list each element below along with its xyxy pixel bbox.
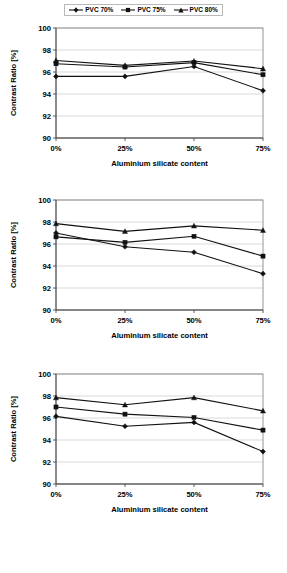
y-tick-label: 98 xyxy=(43,392,51,401)
square-marker-icon xyxy=(54,235,58,239)
legend-item-pvc-75: PVC 75% xyxy=(121,6,165,14)
square-marker-icon xyxy=(261,254,265,258)
figure-page: PVC 70% PVC 75% PVC 80% 10098969492900%2… xyxy=(0,0,287,573)
diamond-marker-icon xyxy=(69,6,83,14)
square-marker-icon xyxy=(192,415,196,419)
y-tick-label: 100 xyxy=(38,370,51,379)
legend-item-pvc-80: PVC 80% xyxy=(174,6,218,14)
y-tick-label: 96 xyxy=(43,414,51,423)
y-axis-title: Contrast Ratio [%] xyxy=(9,395,18,462)
y-tick-label: 94 xyxy=(43,262,52,271)
chart-canvas-1: 10098969492900%25%50%75%Aluminium silica… xyxy=(0,16,287,186)
line-chart-2: 10098969492900%25%50%75%Aluminium silica… xyxy=(0,188,287,358)
y-tick-label: 92 xyxy=(43,458,51,467)
legend-label-pvc-80: PVC 80% xyxy=(190,6,218,14)
chart-canvas-3: 10098969492900%25%50%75%Aluminium silica… xyxy=(0,362,287,532)
y-tick-label: 98 xyxy=(43,46,51,55)
y-axis-title: Contrast Ratio [%] xyxy=(9,221,18,288)
x-tick-label: 75% xyxy=(255,316,270,325)
y-tick-label: 96 xyxy=(43,68,51,77)
x-tick-label: 75% xyxy=(255,144,270,153)
y-tick-label: 90 xyxy=(43,480,51,489)
x-tick-label: 75% xyxy=(255,490,270,499)
square-marker-icon xyxy=(123,240,127,244)
square-marker-icon xyxy=(192,234,196,238)
line-chart-3: 10098969492900%25%50%75%Aluminium silica… xyxy=(0,362,287,532)
x-tick-label: 25% xyxy=(117,316,132,325)
legend-item-pvc-70: PVC 70% xyxy=(69,6,113,14)
x-tick-label: 0% xyxy=(51,316,62,325)
y-tick-label: 96 xyxy=(43,240,51,249)
y-tick-label: 94 xyxy=(43,90,52,99)
square-marker-icon xyxy=(123,412,127,416)
x-tick-label: 25% xyxy=(117,490,132,499)
chart-legend: PVC 70% PVC 75% PVC 80% xyxy=(0,4,287,16)
square-marker-icon xyxy=(261,428,265,432)
x-axis-title: Aluminium silicate content xyxy=(111,159,208,168)
y-tick-label: 92 xyxy=(43,112,51,121)
y-tick-label: 94 xyxy=(43,436,52,445)
y-axis-title: Contrast Ratio [%] xyxy=(9,49,18,116)
y-tick-label: 90 xyxy=(43,134,51,143)
y-tick-label: 100 xyxy=(38,24,51,33)
x-tick-label: 25% xyxy=(117,144,132,153)
x-tick-label: 50% xyxy=(186,490,201,499)
y-tick-label: 98 xyxy=(43,218,51,227)
square-marker-icon xyxy=(121,6,135,14)
y-tick-label: 100 xyxy=(38,196,51,205)
y-tick-label: 92 xyxy=(43,284,51,293)
chart-canvas-2: 10098969492900%25%50%75%Aluminium silica… xyxy=(0,188,287,358)
square-marker-icon xyxy=(261,73,265,77)
triangle-marker-icon xyxy=(174,6,188,14)
y-tick-label: 90 xyxy=(43,306,51,315)
legend-box: PVC 70% PVC 75% PVC 80% xyxy=(64,4,223,16)
x-tick-label: 50% xyxy=(186,144,201,153)
line-chart-1: 10098969492900%25%50%75%Aluminium silica… xyxy=(0,16,287,186)
legend-label-pvc-70: PVC 70% xyxy=(85,6,113,14)
legend-label-pvc-75: PVC 75% xyxy=(137,6,165,14)
x-tick-label: 0% xyxy=(51,490,62,499)
x-axis-title: Aluminium silicate content xyxy=(111,505,208,514)
square-marker-icon xyxy=(54,405,58,409)
x-axis-title: Aluminium silicate content xyxy=(111,331,208,340)
x-tick-label: 50% xyxy=(186,316,201,325)
x-tick-label: 0% xyxy=(51,144,62,153)
